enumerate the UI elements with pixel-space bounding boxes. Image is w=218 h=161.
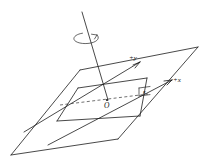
coordinate-system-diagram: +y +x O κ bbox=[0, 0, 218, 161]
y-axis-arrowhead bbox=[133, 62, 140, 68]
rotation-direction-arrow bbox=[74, 33, 98, 43]
y-axis-line bbox=[24, 62, 140, 132]
outer-plane-bottom-edge bbox=[11, 139, 118, 155]
y-axis-label: +y bbox=[129, 54, 138, 62]
origin-label: O bbox=[104, 101, 110, 110]
y-axis bbox=[24, 62, 140, 132]
x-axis-label: +x bbox=[173, 76, 182, 84]
inner-plane-top-edge bbox=[78, 78, 147, 88]
diagram-canvas: +y +x O κ bbox=[0, 0, 218, 161]
x-axis-line bbox=[48, 80, 172, 145]
inner-plane-left-edge bbox=[57, 88, 78, 121]
inner-plane-right-edge bbox=[140, 78, 147, 116]
angle-label: κ bbox=[143, 89, 146, 95]
inner-reference-plane bbox=[57, 78, 147, 121]
outer-plane-left-edge bbox=[11, 70, 80, 155]
angle-tick-upper bbox=[139, 87, 150, 89]
x-axis bbox=[48, 80, 172, 145]
rotation-arrowhead bbox=[92, 34, 98, 39]
